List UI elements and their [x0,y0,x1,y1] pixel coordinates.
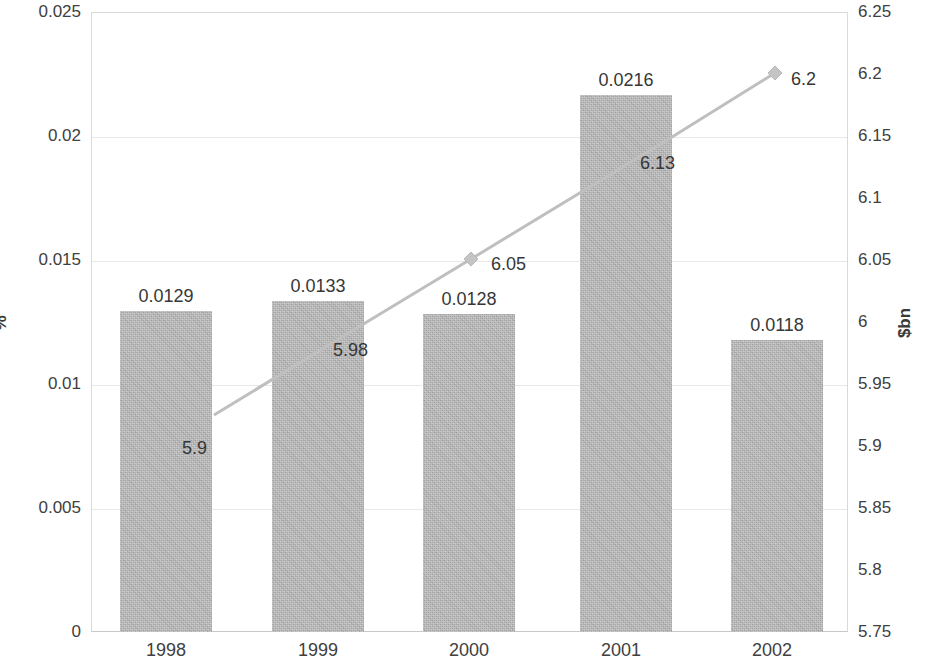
line-label-2000: 6.05 [491,254,526,275]
y-right-tick-10: 5.75 [848,623,928,640]
y-right-tick-0: 6.25 [848,3,928,20]
line-label-2001: 6.13 [640,153,675,174]
line-label-1998: 5.9 [182,438,207,459]
y-left-tick-3: 0.01 [13,375,91,392]
gridline-1 [92,261,847,262]
chart-container: 0.01290.01330.01280.02160.0118 5.95.986.… [0,0,929,670]
y-right-tick-4: 6.05 [848,251,928,268]
y-right-tick-6: 5.95 [848,375,928,392]
y-right-tick-7: 5.9 [848,437,928,454]
y-right-tick-9: 5.8 [848,561,928,578]
gridline-0 [92,137,847,138]
x-axis-label-2002: 2002 [712,640,832,661]
bar-label-2000: 0.0128 [399,289,539,310]
y-left-tick-5: 0 [13,623,91,640]
y-left-tick-1: 0.02 [13,127,91,144]
bar-label-1999: 0.0133 [248,276,388,297]
line-label-2002: 6.2 [791,69,816,90]
bar-1998[interactable] [120,311,212,632]
y-axis-left: 0.0250.020.0150.010.0050 [0,0,91,670]
line-label-1999: 5.98 [333,340,368,361]
bar-label-2001: 0.0216 [556,70,696,91]
y-right-tick-3: 6.1 [848,189,928,206]
x-axis-label-2000: 2000 [409,640,529,661]
y-axis-right-title: $bn [895,308,915,338]
y-right-tick-8: 5.85 [848,499,928,516]
y-right-tick-5: 6 [848,313,928,330]
y-axis-left-title: % [0,315,11,330]
y-left-tick-4: 0.005 [13,499,91,516]
y-right-tick-2: 6.15 [848,127,928,144]
x-axis-label-2001: 2001 [561,640,681,661]
bar-2001[interactable] [580,95,672,632]
x-axis-label-1998: 1998 [106,640,226,661]
x-axis-label-1999: 1999 [258,640,378,661]
y-left-tick-0: 0.025 [13,3,91,20]
bar-label-1998: 0.0129 [96,286,236,307]
y-right-tick-1: 6.2 [848,65,928,82]
bar-2000[interactable] [423,314,515,632]
y-left-tick-2: 0.015 [13,251,91,268]
y-axis-right: 6.256.26.156.16.0565.955.95.855.85.75 [848,0,929,670]
bar-2002[interactable] [731,340,823,632]
bar-label-2002: 0.0118 [707,315,847,336]
